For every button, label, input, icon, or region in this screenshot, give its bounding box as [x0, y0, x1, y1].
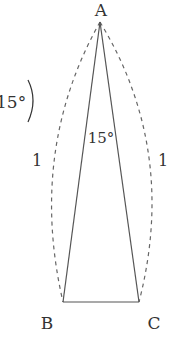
side-AC	[100, 22, 139, 302]
partial-angle-label: 15°	[0, 92, 26, 112]
vertex-label-b: B	[41, 313, 54, 333]
vertex-label-a: A	[94, 0, 108, 20]
arc-left-dashed	[52, 22, 100, 302]
vertex-label-c: C	[147, 313, 160, 333]
apex-angle-label: 15°	[88, 129, 115, 147]
side-label-right: 1	[158, 151, 168, 170]
paren-arc	[28, 80, 33, 122]
side-AB	[63, 22, 100, 302]
triangle-diagram: A B C 15° 1 1 15°	[0, 0, 172, 352]
arc-right-dashed	[100, 22, 152, 302]
side-label-left: 1	[32, 151, 42, 170]
